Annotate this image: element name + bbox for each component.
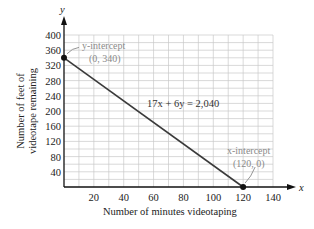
y-axis-label-line1: Number of feet of [15,73,26,149]
y-tick-label: 40 [51,167,62,178]
y-intercept-dot [61,55,67,61]
x-intercept-dot [240,184,246,190]
y-intercept-pointer-icon [67,47,79,53]
x-tick-label: 100 [205,192,221,203]
y-tick-label: 400 [45,30,61,41]
x-tick-label: 40 [118,192,129,203]
chart-canvas: x y 20406080100120140 408012016020024028… [0,0,314,229]
y-tick-label: 320 [45,60,61,71]
x-intercept-label: x-intercept [227,145,271,156]
equation-label: 17x + 6y = 2,040 [147,98,219,109]
x-intercept-pointer-icon [245,167,255,183]
x-tick-label: 140 [265,192,281,203]
intercept-points: y-intercept(0, 340)x-intercept(120, 0) [61,40,271,190]
y-intercept-coords: (0, 340) [89,53,121,65]
x-tick-labels: 20406080100120140 [89,192,281,203]
y-intercept-label: y-intercept [82,40,126,51]
x-axis-name: x [298,182,304,193]
x-intercept-coords: (120, 0) [233,158,265,170]
x-tick-label: 120 [235,192,251,203]
x-tick-label: 80 [178,192,189,203]
x-axis-arrow-icon [287,184,296,190]
y-tick-label: 280 [45,76,61,87]
y-tick-label: 360 [45,45,61,56]
y-tick-labels: 4080120160200240280320360400 [45,30,61,178]
x-tick-label: 60 [148,192,159,203]
y-tick-label: 120 [45,136,61,147]
y-tick-label: 80 [51,152,62,163]
y-tick-label: 160 [45,121,61,132]
y-axis-label: Number of feet of videotape remaining [15,67,38,154]
x-axis-label: Number of minutes videotaping [103,206,238,217]
y-axis-label-line2: videotape remaining [27,67,38,154]
y-tick-label: 200 [45,106,61,117]
x-tick-label: 20 [89,192,100,203]
y-axis-name: y [59,4,65,15]
y-axis-arrow-icon [61,16,67,25]
y-tick-label: 240 [45,91,61,102]
